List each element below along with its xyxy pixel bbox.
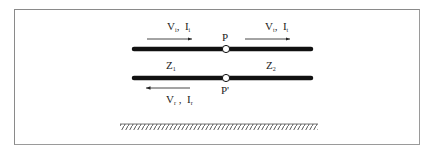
impedance-left-label: Z1 [166,60,176,72]
incident-label: Vi, Ii [167,21,190,33]
impedance-right-label: Z2 [266,60,276,72]
transmitted-label: Vt, It [265,21,288,33]
ground-hatch [120,124,318,130]
reflected-label: Vr , Ir [166,94,193,106]
diagram-canvas [0,0,434,153]
node-label-p-prime: P' [221,85,229,96]
node-label-p: P [222,32,228,43]
junction-node-p [222,45,229,52]
junction-node-p-prime [222,74,229,81]
